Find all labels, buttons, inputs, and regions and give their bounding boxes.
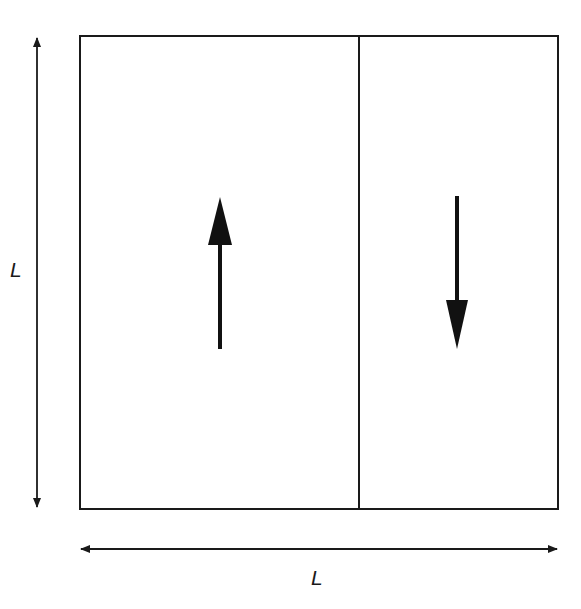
horizontal-dimension-label: L xyxy=(311,566,323,589)
diagram-canvas: L L xyxy=(0,0,581,609)
outer-square xyxy=(80,36,558,509)
arrow-down-icon xyxy=(446,196,468,349)
vertical-dimension-label: L xyxy=(10,258,22,281)
arrow-up-icon xyxy=(208,197,232,349)
